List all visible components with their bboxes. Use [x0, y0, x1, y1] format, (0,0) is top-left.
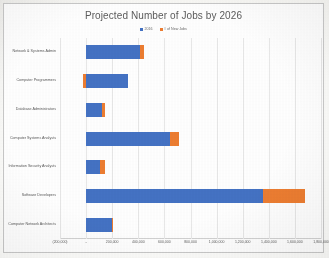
value-tick-label: 1,200,000	[235, 241, 251, 245]
legend-swatch-new-jobs	[160, 28, 163, 31]
value-tick-label: 1,000,000	[209, 241, 225, 245]
bar-row[interactable]	[60, 160, 321, 174]
category-label: Computer Programmers	[4, 79, 56, 83]
legend-swatch-2016	[140, 28, 143, 31]
plot-area	[60, 38, 321, 239]
chart-container: Projected Number of Jobs by 2026 2016# o…	[3, 3, 324, 253]
legend-label: 2016	[145, 28, 153, 32]
legend-entry[interactable]: 2016	[140, 28, 153, 32]
bar-segment-2016[interactable]	[86, 103, 102, 117]
bar-segment-new-jobs[interactable]	[263, 189, 305, 203]
bar-segment-new-jobs[interactable]	[102, 103, 105, 117]
bar-row[interactable]	[60, 132, 321, 146]
bar-segment-2016[interactable]	[86, 132, 170, 146]
bar-row[interactable]	[60, 103, 321, 117]
chart-title: Projected Number of Jobs by 2026	[4, 10, 323, 21]
bar-row[interactable]	[60, 218, 321, 232]
bar-segment-2016[interactable]	[86, 189, 263, 203]
bar-segment-new-jobs[interactable]	[140, 45, 144, 59]
bar-segment-new-jobs[interactable]	[112, 218, 113, 232]
bar-row[interactable]	[60, 189, 321, 203]
bar-segment-2016[interactable]	[86, 74, 128, 88]
bar-segment-new-jobs[interactable]	[100, 160, 105, 174]
gridline	[321, 38, 322, 239]
bar-segment-new-jobs[interactable]	[170, 132, 180, 146]
category-label: Computer Systems Analysts	[4, 137, 56, 141]
value-tick-label: 1,400,000	[261, 241, 277, 245]
bar-segment-2016[interactable]	[86, 45, 140, 59]
bar-segment-2016[interactable]	[86, 218, 112, 232]
category-label: Network & Systems Admin	[4, 50, 56, 54]
legend-label: # of New Jobs	[164, 28, 187, 32]
category-label: Information Security Analysts	[4, 165, 56, 169]
chart-legend: 2016# of New Jobs	[4, 28, 323, 32]
value-tick-label: 600,000	[158, 241, 171, 245]
value-tick-label: 1,600,000	[287, 241, 303, 245]
value-tick-label: (200,000)	[53, 241, 68, 245]
category-label: Software Developers	[4, 194, 56, 198]
value-tick-label: -	[86, 241, 87, 245]
category-label: Database Administrators	[4, 108, 56, 112]
bar-row[interactable]	[60, 45, 321, 59]
value-axis-tick-labels: (200,000)-200,000400,000600,000800,0001,…	[60, 241, 321, 251]
bar-row[interactable]	[60, 74, 321, 88]
value-tick-label: 200,000	[106, 241, 119, 245]
value-tick-label: 1,800,000	[313, 241, 329, 245]
scanned-page: Projected Number of Jobs by 2026 2016# o…	[0, 0, 329, 258]
bar-segment-new-jobs[interactable]	[83, 74, 86, 88]
bar-segment-2016[interactable]	[86, 160, 100, 174]
value-tick-label: 400,000	[132, 241, 145, 245]
value-tick-label: 800,000	[184, 241, 197, 245]
legend-entry[interactable]: # of New Jobs	[160, 28, 187, 32]
category-axis-labels: Network & Systems AdminComputer Programm…	[4, 38, 58, 239]
category-label: Computer Network Architects	[4, 223, 56, 227]
